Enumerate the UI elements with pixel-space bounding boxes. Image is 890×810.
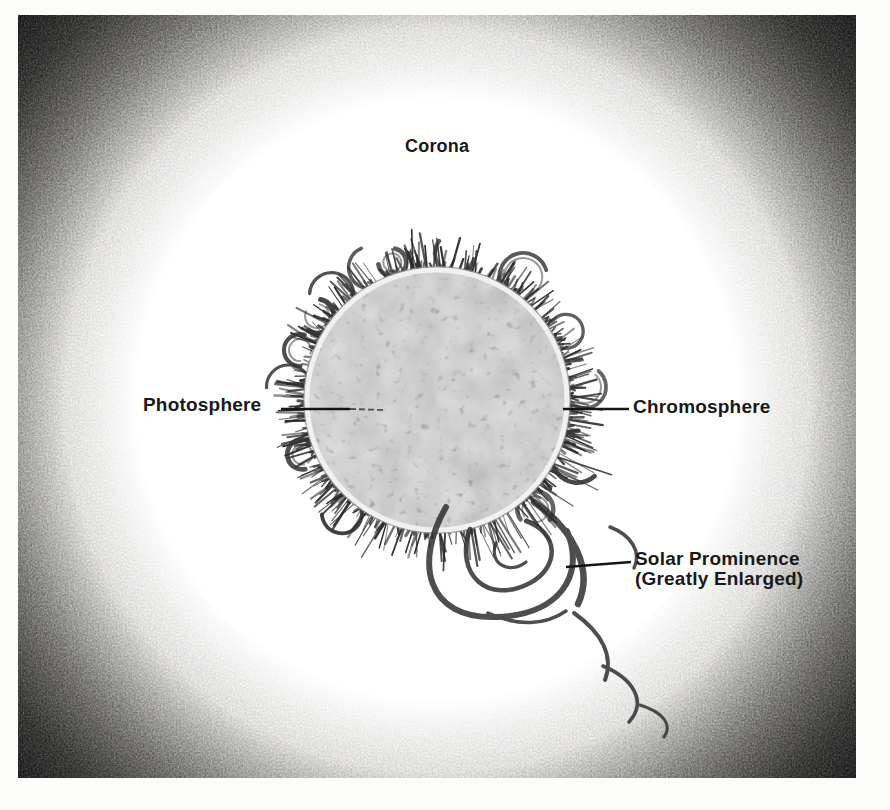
- page-background: Corona Photosphere Chromosphere Solar Pr…: [0, 0, 890, 810]
- solar-prominence-label-line2: (Greatly Enlarged): [635, 569, 803, 589]
- solar-prominence-label-line1: Solar Prominence: [635, 549, 803, 569]
- chromosphere-label: Chromosphere: [633, 397, 771, 417]
- sun-diagram-photo: Corona Photosphere Chromosphere Solar Pr…: [18, 15, 856, 778]
- photosphere-label: Photosphere: [143, 395, 261, 415]
- corona-label: Corona: [405, 136, 469, 156]
- solar-prominence-label: Solar Prominence (Greatly Enlarged): [635, 549, 803, 589]
